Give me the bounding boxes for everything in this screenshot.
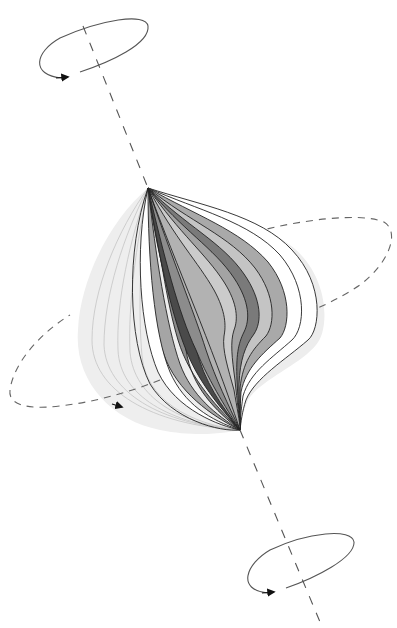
- bottom-rotation-ellipse: [248, 534, 354, 593]
- diagram-svg: [0, 0, 397, 628]
- top-rotation-ellipse: [40, 19, 148, 78]
- diagram-canvas: [0, 0, 397, 628]
